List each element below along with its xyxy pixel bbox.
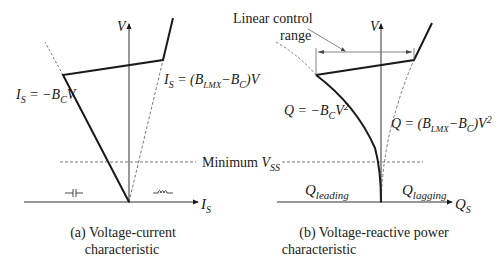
q-leading-label: Qleading — [305, 182, 349, 201]
capacitive-dashed-extension — [45, 42, 63, 75]
minimum-vss-label: Minimum VSS — [202, 155, 280, 173]
inductive-dashed-curve — [381, 60, 414, 202]
capacitive-q-equation: Q = −BCV2 — [284, 101, 349, 121]
q-lagging-label: Qlagging — [402, 182, 447, 201]
linear-control-annotation-line2: range — [280, 28, 311, 43]
caption-b-line1: (b) Voltage-reactive power — [299, 225, 449, 241]
caption-b-line2: characteristic — [282, 242, 357, 257]
qs-axis-label: QS — [455, 196, 471, 215]
inductive-dashed-line — [129, 60, 163, 202]
panel-a-voltage-current: V IS IS = −BCV IS = (BLMX−BC)V (a) Volta… — [15, 18, 261, 257]
inductor-icon — [153, 191, 173, 194]
inductive-equation: IS = (BLMX−BC)V — [163, 72, 261, 90]
capacitive-equation: IS = −BCV — [15, 87, 77, 105]
v-axis-label-a: V — [117, 19, 127, 34]
vq-capacitive-curve — [316, 75, 381, 202]
linear-control-annotation-line1: Linear control — [233, 11, 313, 26]
vi-characteristic-curve — [63, 18, 173, 202]
capacitive-dashed-extension-b — [276, 42, 316, 75]
svc-characteristics-diagram: V IS IS = −BCV IS = (BLMX−BC)V (a) Volta… — [0, 0, 498, 272]
minimum-vss-line: Minimum VSS — [60, 155, 423, 173]
inductive-q-equation: Q = (BLMX−BC)V2 — [391, 114, 492, 134]
v-axis-label-b: V — [370, 19, 380, 34]
panel-b-voltage-reactive-power: Linear control range V QS Q = −BCV2 Q = … — [233, 11, 492, 257]
caption-a-line1: (a) Voltage-current — [70, 225, 176, 241]
caption-a-line2: characteristic — [85, 242, 160, 257]
is-axis-label: IS — [200, 196, 211, 215]
capacitor-icon — [65, 189, 83, 197]
